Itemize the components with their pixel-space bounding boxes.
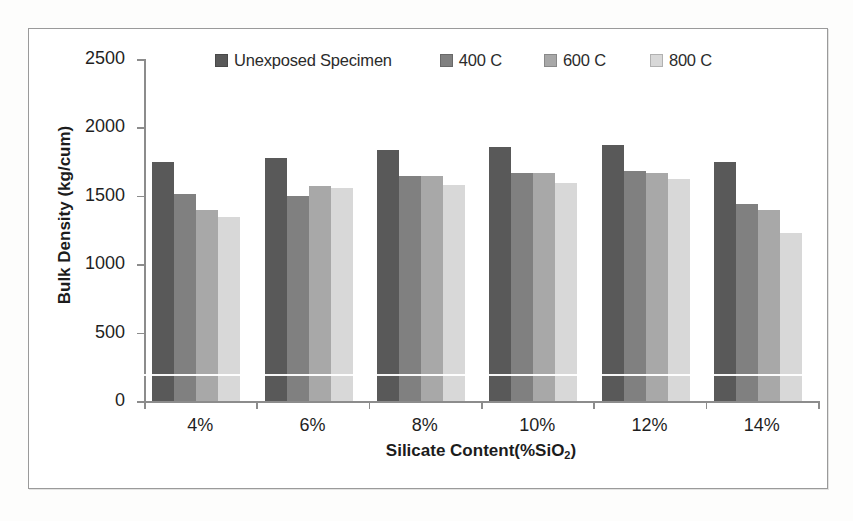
bar (646, 173, 668, 401)
bar (287, 196, 309, 401)
bar (624, 171, 646, 402)
page-background: Unexposed Specimen400 C600 C800 C 050010… (0, 0, 853, 521)
x-tick-label: 8% (380, 415, 470, 436)
x-tick-label: 14% (717, 415, 807, 436)
bar (331, 188, 353, 401)
x-tick-label: 6% (268, 415, 358, 436)
bar (265, 158, 287, 402)
bar (602, 145, 624, 401)
bar (421, 176, 443, 401)
x-tick-label: 12% (605, 415, 695, 436)
x-axis-title-subscript: 2 (564, 449, 570, 461)
bar (443, 185, 465, 401)
bar (714, 162, 736, 401)
bar (399, 176, 421, 401)
bar (758, 210, 780, 401)
bar (668, 179, 690, 401)
chart-frame: Unexposed Specimen400 C600 C800 C 050010… (28, 28, 828, 489)
x-axis-title: Silicate Content(%SiO2) (144, 441, 818, 461)
x-tick-mark (369, 401, 371, 409)
bar (174, 194, 196, 401)
x-tick-mark (144, 401, 146, 409)
bar (489, 147, 511, 401)
bar (196, 210, 218, 401)
bar (736, 204, 758, 401)
y-tick-label: 2500 (45, 48, 125, 69)
bar (533, 173, 555, 401)
bar (511, 173, 533, 401)
x-tick-mark (481, 401, 483, 409)
x-tick-mark (593, 401, 595, 409)
y-tick-label: 0 (45, 390, 125, 411)
bar (555, 183, 577, 401)
bar (377, 150, 399, 401)
bar (152, 162, 174, 401)
x-tick-mark (706, 401, 708, 409)
x-tick-mark (256, 401, 258, 409)
bar (309, 186, 331, 401)
x-tick-mark (818, 401, 820, 409)
bars-layer (144, 59, 818, 401)
y-axis-title: Bulk Density (kg/cum) (55, 75, 75, 355)
scan-artifact-line (144, 374, 818, 376)
x-tick-label: 10% (492, 415, 582, 436)
x-tick-label: 4% (155, 415, 245, 436)
plot-area: 05001000150020002500 4%6%8%10%12%14% Bul… (29, 29, 829, 490)
